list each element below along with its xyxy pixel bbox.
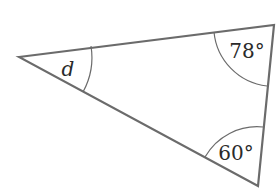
- angle-label-60: 60°: [218, 141, 253, 165]
- angle-label-d: d: [62, 57, 75, 81]
- angle-label-78: 78°: [229, 39, 264, 63]
- angle-arc-left: [83, 46, 92, 92]
- triangle-diagram: d 78° 60°: [0, 0, 280, 191]
